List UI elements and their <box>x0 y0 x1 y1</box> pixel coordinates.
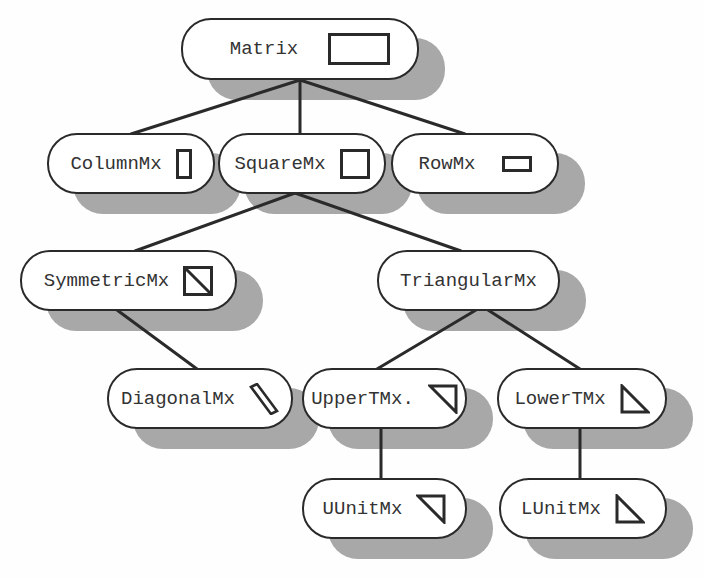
node-label: ColumnMx <box>70 153 161 175</box>
edge-squaremx-symmetricmx <box>135 193 295 251</box>
node-diagonalmx: DiagonalMx <box>107 368 293 429</box>
edge-symmetricmx-diagonalmx <box>117 310 197 369</box>
edge-triangularmx-uppertmx <box>377 310 476 369</box>
class-hierarchy-diagram: Matrix ColumnMx SquareMx RowMx Symmetric… <box>0 0 704 578</box>
upper-triangle-icon <box>416 494 446 524</box>
wide-rectangle-icon <box>502 156 532 172</box>
edge-matrix-rowmx <box>300 80 465 134</box>
lower-triangle-icon <box>620 384 650 414</box>
node-symmetricmx: SymmetricMx <box>20 250 237 311</box>
node-label: LowerTMx <box>514 388 605 410</box>
node-label: RowMx <box>418 153 475 175</box>
square-diagonal-icon <box>183 266 213 296</box>
node-columnmx: ColumnMx <box>47 133 215 194</box>
square-icon <box>340 149 370 179</box>
node-label: DiagonalMx <box>121 388 235 410</box>
node-label: SymmetricMx <box>44 270 169 292</box>
upper-triangle-icon <box>428 384 458 414</box>
tall-rectangle-icon <box>176 149 192 179</box>
node-label: TriangularMx <box>400 270 537 292</box>
edge-matrix-columnmx <box>131 80 300 134</box>
diagonal-bar-icon <box>249 383 279 415</box>
node-label: LUnitMx <box>521 498 601 520</box>
node-label: Matrix <box>230 38 298 60</box>
node-rowmx: RowMx <box>391 133 559 194</box>
node-triangularmx: TriangularMx <box>377 250 560 311</box>
node-uppertmx: UpperTMx. <box>302 368 467 429</box>
node-label: SquareMx <box>234 153 325 175</box>
edge-triangularmx-lowertmx <box>488 310 580 369</box>
rectangle-icon <box>328 33 390 65</box>
node-lowertmx: LowerTMx <box>497 368 667 429</box>
node-label: UUnitMx <box>323 498 403 520</box>
node-squaremx: SquareMx <box>218 133 386 194</box>
edge-squaremx-triangularmx <box>295 193 461 251</box>
node-matrix: Matrix <box>181 18 419 80</box>
node-lunitmx: LUnitMx <box>499 478 667 539</box>
node-uunitmx: UUnitMx <box>302 478 467 539</box>
lower-triangle-icon <box>615 494 645 524</box>
node-label: UpperTMx. <box>311 388 414 410</box>
